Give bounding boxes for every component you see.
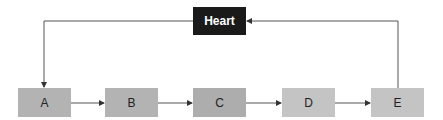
node-d: D [282, 88, 335, 117]
edge-heart-to-a [44, 21, 193, 87]
heart-node: Heart [193, 7, 246, 35]
edge-e-to-heart [247, 21, 398, 88]
node-b: B [105, 88, 158, 117]
node-c: C [193, 88, 246, 117]
node-a: A [18, 88, 71, 117]
node-e: E [371, 88, 424, 117]
